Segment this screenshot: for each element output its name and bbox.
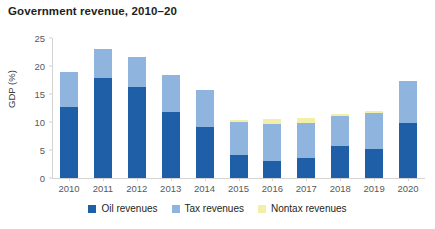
bar-stack[interactable] xyxy=(331,114,349,178)
x-axis-tick-mark xyxy=(205,178,206,181)
legend-label: Tax revenues xyxy=(185,203,244,214)
bar-segment[interactable] xyxy=(297,123,315,159)
x-axis-tick-mark xyxy=(306,178,307,181)
y-axis-tick-mark xyxy=(49,122,52,123)
x-axis-tick-mark xyxy=(137,178,138,181)
bar-segment[interactable] xyxy=(399,123,417,178)
legend-swatch-icon xyxy=(172,205,180,213)
bar-stack[interactable] xyxy=(162,75,180,178)
bar-segment[interactable] xyxy=(263,124,281,161)
x-axis-tick-mark xyxy=(103,178,104,181)
chart-legend: Oil revenuesTax revenuesNontax revenues xyxy=(0,203,435,214)
bar-stack[interactable] xyxy=(230,120,248,178)
x-axis-tick-mark xyxy=(340,178,341,181)
legend-item[interactable]: Nontax revenues xyxy=(258,203,347,214)
x-axis-tick-label: 2016 xyxy=(262,183,283,194)
bar-segment[interactable] xyxy=(263,161,281,178)
bar-stack[interactable] xyxy=(263,119,281,178)
x-axis-tick-label: 2013 xyxy=(160,183,181,194)
legend-swatch-icon xyxy=(88,205,96,213)
y-axis-label: GDP (%) xyxy=(6,70,17,108)
y-axis-tick-mark xyxy=(49,94,52,95)
bar-stack[interactable] xyxy=(94,49,112,178)
bar-segment[interactable] xyxy=(162,112,180,178)
bar-segment[interactable] xyxy=(94,78,112,178)
x-axis-tick-label: 2020 xyxy=(397,183,418,194)
bar-segment[interactable] xyxy=(60,72,78,107)
x-axis-tick-mark xyxy=(272,178,273,181)
bar-segment[interactable] xyxy=(128,57,146,87)
bar-segment[interactable] xyxy=(196,90,214,127)
legend-label: Oil revenues xyxy=(101,203,157,214)
bar-stack[interactable] xyxy=(297,118,315,178)
bar-stack[interactable] xyxy=(365,111,383,178)
bar-segment[interactable] xyxy=(331,116,349,146)
y-axis-tick-mark xyxy=(49,150,52,151)
bar-segment[interactable] xyxy=(230,122,248,155)
chart-figure: Government revenue, 2010–20 GDP (%) 0510… xyxy=(0,0,435,229)
x-axis-tick-label: 2014 xyxy=(194,183,215,194)
x-axis-tick-label: 2011 xyxy=(93,183,113,194)
bar-segment[interactable] xyxy=(297,158,315,178)
bar-stack[interactable] xyxy=(128,57,146,178)
x-axis-tick-label: 2010 xyxy=(58,183,79,194)
y-axis-tick-mark xyxy=(49,66,52,67)
x-axis-tick-label: 2017 xyxy=(296,183,317,194)
y-axis-tick-mark xyxy=(49,38,52,39)
x-axis-tick-mark xyxy=(171,178,172,181)
x-axis-tick-mark xyxy=(69,178,70,181)
bar-stack[interactable] xyxy=(196,90,214,178)
y-axis-tick-mark xyxy=(49,178,52,179)
legend-swatch-icon xyxy=(258,205,266,213)
legend-item[interactable]: Tax revenues xyxy=(172,203,244,214)
x-axis-tick-mark xyxy=(374,178,375,181)
plot-area: 0510152025 xyxy=(52,38,425,178)
bar-segment[interactable] xyxy=(196,127,214,178)
bar-segment[interactable] xyxy=(162,75,180,113)
chart-title: Government revenue, 2010–20 xyxy=(8,5,177,17)
bar-segment[interactable] xyxy=(128,87,146,178)
x-axis-tick-label: 2019 xyxy=(364,183,385,194)
bar-segment[interactable] xyxy=(399,81,417,124)
bar-segment[interactable] xyxy=(331,146,349,178)
bar-stack[interactable] xyxy=(399,81,417,178)
bar-stack[interactable] xyxy=(60,72,78,178)
bar-segment[interactable] xyxy=(365,149,383,178)
x-axis-tick-label: 2018 xyxy=(330,183,351,194)
bar-segment[interactable] xyxy=(365,113,383,150)
x-axis-tick-mark xyxy=(408,178,409,181)
x-axis-tick-mark xyxy=(239,178,240,181)
x-axis-tick-label: 2015 xyxy=(228,183,249,194)
legend-label: Nontax revenues xyxy=(271,203,347,214)
bar-segment[interactable] xyxy=(94,49,112,78)
x-axis-tick-label: 2012 xyxy=(126,183,147,194)
bar-segment[interactable] xyxy=(230,155,248,178)
legend-item[interactable]: Oil revenues xyxy=(88,203,157,214)
bar-segment[interactable] xyxy=(60,107,78,178)
